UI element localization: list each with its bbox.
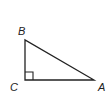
- vertex-label-b: B: [18, 25, 25, 37]
- triangle-abc: [25, 40, 94, 80]
- vertex-label-c: C: [10, 81, 18, 93]
- right-angle-marker: [25, 72, 33, 80]
- triangle-diagram: B C A: [0, 0, 112, 97]
- vertex-label-a: A: [97, 81, 105, 93]
